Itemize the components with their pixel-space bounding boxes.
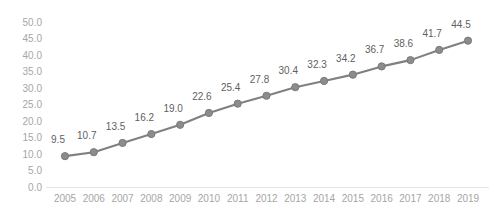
data-point-marker xyxy=(148,130,155,137)
data-point-label: 19.0 xyxy=(158,104,188,114)
data-point-label: 36.7 xyxy=(360,45,390,55)
data-point-marker xyxy=(407,57,414,64)
data-point-marker xyxy=(61,153,68,160)
data-point-marker xyxy=(436,46,443,53)
data-point-marker xyxy=(320,77,327,84)
data-point-label: 41.7 xyxy=(417,29,447,39)
data-point-marker xyxy=(90,149,97,156)
data-point-label: 9.5 xyxy=(43,135,73,145)
data-point-marker xyxy=(292,84,299,91)
data-point-marker xyxy=(119,139,126,146)
data-point-marker xyxy=(378,63,385,70)
data-point-label: 30.4 xyxy=(273,66,303,76)
data-point-marker xyxy=(205,109,212,116)
data-point-label: 16.2 xyxy=(129,113,159,123)
data-point-marker xyxy=(177,121,184,128)
data-point-label: 10.7 xyxy=(72,131,102,141)
data-point-marker xyxy=(263,92,270,99)
data-point-label: 38.6 xyxy=(388,39,418,49)
x-axis-tick-label: 2019 xyxy=(451,194,485,204)
data-point-label: 27.8 xyxy=(245,75,275,85)
data-point-label: 32.3 xyxy=(302,60,332,70)
line-chart: 0.05.010.015.020.025.030.035.040.045.050… xyxy=(0,0,495,214)
data-point-label: 22.6 xyxy=(187,92,217,102)
data-point-marker xyxy=(349,71,356,78)
data-point-label: 44.5 xyxy=(446,20,476,30)
series-markers xyxy=(61,37,471,160)
data-point-marker xyxy=(464,37,471,44)
data-point-label: 34.2 xyxy=(331,54,361,64)
data-point-label: 13.5 xyxy=(101,122,131,132)
data-point-label: 25.4 xyxy=(216,83,246,93)
data-point-marker xyxy=(234,100,241,107)
